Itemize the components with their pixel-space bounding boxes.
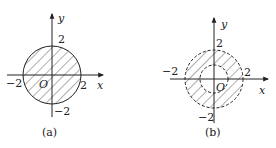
tick-y-pos-a: 2	[58, 33, 65, 46]
tick-y-neg-a: −2	[54, 105, 70, 118]
figure-b: y 2 −2 2 O x −2 (b)	[162, 18, 268, 139]
origin-label-a: O	[39, 78, 48, 91]
figure-a: y 2 −2 O 2 x −2 (a)	[6, 12, 104, 139]
x-axis-label-a: x	[97, 79, 104, 92]
tick-x-neg-a: −2	[6, 77, 22, 90]
caption-a: (a)	[42, 126, 57, 139]
tick-y-pos-b: 2	[216, 37, 223, 50]
tick-y-neg-b: −2	[198, 111, 214, 124]
tick-x-pos-b: 2	[244, 66, 251, 79]
origin-label-b: O	[216, 81, 225, 94]
caption-b: (b)	[205, 126, 221, 139]
diagram-canvas: y 2 −2 O 2 x −2 (a) y 2 −2 2 O x −2 (b)	[0, 0, 276, 148]
tick-x-neg-b: −2	[162, 65, 178, 78]
y-axis-label-a: y	[57, 12, 65, 25]
y-axis-label-b: y	[220, 18, 228, 31]
x-axis-label-b: x	[259, 84, 266, 97]
tick-x-pos-a: 2	[80, 79, 87, 92]
